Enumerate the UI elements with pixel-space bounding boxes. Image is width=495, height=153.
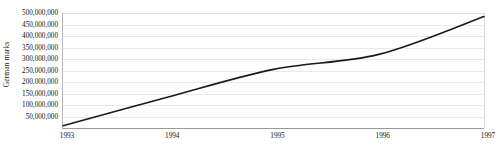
y-tick-label: 150,000,000 — [22, 90, 58, 98]
y-tick-label: 50,000,000 — [26, 113, 58, 121]
series-path — [63, 16, 484, 125]
y-axis-title: German marks — [0, 0, 14, 128]
y-tick-label: 400,000,000 — [22, 32, 58, 40]
x-tick-label: 1994 — [165, 131, 179, 141]
y-tick-label: 450,000,000 — [22, 21, 58, 29]
x-tick-label: 1993 — [60, 131, 74, 141]
y-tick-label: 100,000,000 — [22, 101, 58, 109]
y-tick-label: 200,000,000 — [22, 78, 58, 86]
y-axis-title-label: German marks — [3, 41, 12, 87]
plot-area — [62, 13, 485, 128]
x-tick-label: 1997 — [481, 131, 495, 141]
series-line-german-marks — [63, 13, 484, 128]
x-tick-label: 1995 — [270, 131, 284, 141]
x-axis-tick-labels: 19931994199519961997 — [0, 131, 491, 147]
x-tick-label: 1996 — [376, 131, 390, 141]
y-tick-label: 500,000,000 — [22, 9, 58, 17]
y-tick-label: 250,000,000 — [22, 67, 58, 75]
x-axis-line — [62, 128, 484, 129]
y-tick-label: 350,000,000 — [22, 44, 58, 52]
y-tick-label: 300,000,000 — [22, 55, 58, 63]
